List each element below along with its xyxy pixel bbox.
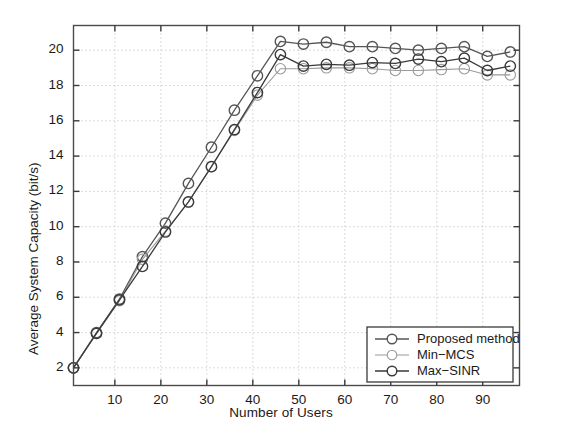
y-tick-label: 14	[36, 147, 64, 162]
chart-figure: Average System Capacity (bit/s) Number o…	[0, 0, 562, 448]
x-axis-label: Number of Users	[0, 405, 562, 420]
y-tick-label: 16	[36, 112, 64, 127]
series-1	[68, 36, 515, 373]
y-tick-label: 18	[36, 77, 64, 92]
x-tick-label: 60	[327, 392, 363, 407]
legend-marker-swatch	[387, 366, 397, 376]
legend-item-label: Min−MCS	[417, 347, 474, 362]
series-3	[68, 49, 515, 373]
y-tick-label: 12	[36, 182, 64, 197]
y-tick-label: 6	[36, 288, 64, 303]
data-series-layer	[68, 36, 515, 373]
series-line	[74, 55, 511, 368]
y-tick-label: 20	[36, 41, 64, 56]
plot-canvas	[0, 0, 562, 448]
x-tick-label: 80	[419, 392, 455, 407]
x-tick-label: 50	[281, 392, 317, 407]
legend-item-label: Max−SINR	[417, 363, 480, 378]
x-tick-label: 20	[143, 392, 179, 407]
y-tick-label: 4	[36, 324, 64, 339]
x-tick-label: 40	[235, 392, 271, 407]
y-tick-label: 10	[36, 218, 64, 233]
x-tick-label: 30	[189, 392, 225, 407]
legend-marker-swatch	[387, 350, 397, 360]
series-line	[74, 41, 511, 367]
x-tick-label: 10	[97, 392, 133, 407]
y-tick-label: 2	[36, 359, 64, 374]
legend-item-label: Proposed method	[417, 331, 520, 346]
legend-marker-swatch	[387, 334, 397, 344]
y-tick-label: 8	[36, 253, 64, 268]
x-tick-label: 90	[465, 392, 501, 407]
x-tick-label: 70	[373, 392, 409, 407]
series-line	[74, 68, 511, 368]
